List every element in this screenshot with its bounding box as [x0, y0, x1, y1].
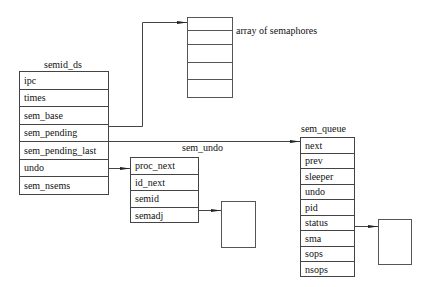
field-proc-next: proc_next: [131, 158, 198, 175]
field-times: times: [20, 90, 108, 108]
field-undo: undo: [20, 160, 108, 178]
field-sem-pending-last: sem_pending_last: [20, 142, 108, 160]
field-id-next: id_next: [131, 175, 198, 192]
semaphore-cell: [188, 80, 232, 97]
sem-queue-title: sem_queue: [301, 123, 346, 134]
field-sem-pending: sem_pending: [20, 125, 108, 143]
semaphore-cell: [188, 63, 232, 80]
field-status: status: [301, 216, 354, 232]
semaphore-cell: [188, 18, 232, 31]
field-undo: undo: [301, 185, 354, 201]
semaphore-cell: [188, 45, 232, 63]
field-sops: sops: [301, 247, 354, 263]
field-nsops: nsops: [301, 262, 354, 276]
semid-ds-title: semid_ds: [44, 59, 82, 70]
sem-undo-title: sem_undo: [182, 142, 223, 153]
semaphore-cell: [188, 31, 232, 45]
sem-undo-struct: proc_next id_next semid semadj: [130, 157, 199, 223]
semaphore-structures-diagram: semid_ds ipc times sem_base sem_pending …: [0, 0, 425, 287]
sops-array: [378, 219, 412, 265]
semaphore-array: [187, 17, 233, 98]
field-sem-nsems: sem_nsems: [20, 177, 108, 194]
semaphore-array-label: array of semaphores: [236, 25, 317, 36]
field-next: next: [301, 138, 354, 154]
field-sleeper: sleeper: [301, 169, 354, 185]
semid-ds-struct: ipc times sem_base sem_pending sem_pendi…: [19, 71, 109, 195]
field-pid: pid: [301, 200, 354, 216]
semadj-array: [221, 201, 256, 248]
field-ipc: ipc: [20, 72, 108, 90]
field-semadj: semadj: [131, 208, 198, 224]
arrow-sem-base: [109, 23, 188, 127]
field-semid: semid: [131, 191, 198, 208]
field-sem-base: sem_base: [20, 107, 108, 125]
sem-queue-struct: next prev sleeper undo pid status sma so…: [300, 137, 355, 277]
field-prev: prev: [301, 154, 354, 170]
field-sma: sma: [301, 231, 354, 247]
